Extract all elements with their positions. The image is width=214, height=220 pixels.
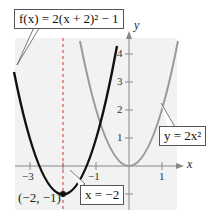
y-tick-label: 1 (117, 131, 123, 143)
y-tick-label: 4 (117, 47, 123, 59)
axis-of-symmetry-label: x = −2 (80, 185, 124, 205)
vertex-label: (−2, −1) (18, 190, 61, 206)
y-tick-label: 2 (117, 103, 123, 115)
y-axis-arrow-icon (126, 31, 132, 39)
x-tick-label: −3 (22, 170, 34, 182)
f-function-label: f(x) = 2(x + 2)² − 1 (14, 9, 124, 29)
x-axis-label: x (187, 157, 192, 172)
x-axis-arrow-icon (176, 163, 184, 169)
g-function-label: y = 2x² (159, 126, 206, 146)
vertex-point (60, 191, 66, 197)
y-tick-label: 3 (117, 75, 123, 87)
x-tick-label: −1 (88, 170, 100, 182)
x-tick-label: 1 (159, 170, 165, 182)
y-axis-label: y (134, 18, 139, 33)
